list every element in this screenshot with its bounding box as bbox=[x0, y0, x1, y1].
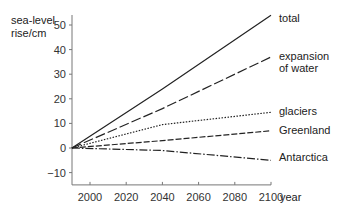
sea-level-rise-chart: −1001020304050200020202040206020802100se… bbox=[0, 0, 358, 217]
series-label: Greenland bbox=[279, 124, 330, 136]
x-tick-label: 2040 bbox=[150, 191, 174, 203]
series-label: total bbox=[279, 12, 300, 24]
series-lines bbox=[72, 15, 271, 160]
series-label: of water bbox=[279, 62, 318, 74]
series-line-antarctica bbox=[72, 148, 271, 160]
x-tick-label: 2020 bbox=[114, 191, 138, 203]
y-tick-label: 30 bbox=[54, 68, 66, 80]
x-tick-label: 2080 bbox=[223, 191, 247, 203]
x-tick-label: 2060 bbox=[186, 191, 210, 203]
y-tick-label: 50 bbox=[54, 19, 66, 31]
series-line-glaciers bbox=[72, 112, 271, 148]
y-axis-title: rise/cm bbox=[11, 27, 46, 39]
series-labels: totalexpansionof waterglaciersGreenlandA… bbox=[279, 12, 330, 163]
series-line-expansion-of-water bbox=[72, 57, 271, 148]
series-label: glaciers bbox=[279, 105, 317, 117]
y-tick-label: 0 bbox=[60, 142, 66, 154]
x-tick-label: 2000 bbox=[78, 191, 102, 203]
series-line-total bbox=[72, 15, 271, 148]
series-line-greenland bbox=[72, 131, 271, 148]
y-axis-title: sea-level bbox=[11, 14, 55, 26]
x-axis-title: year bbox=[280, 191, 302, 203]
y-tick-label: −10 bbox=[47, 167, 66, 179]
series-label: expansion bbox=[279, 50, 329, 62]
series-label: Antarctica bbox=[279, 151, 329, 163]
y-tick-label: 20 bbox=[54, 93, 66, 105]
y-tick-label: 10 bbox=[54, 117, 66, 129]
y-tick-label: 40 bbox=[54, 44, 66, 56]
axes: −1001020304050200020202040206020802100se… bbox=[11, 14, 302, 203]
